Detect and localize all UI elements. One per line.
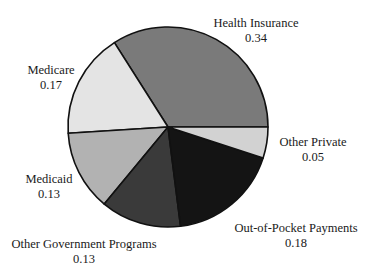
label-value: 0.05 xyxy=(280,150,347,165)
label-other-private: Other Private 0.05 xyxy=(280,135,347,165)
label-name: Other Private xyxy=(280,135,347,150)
label-health-insurance: Health Insurance 0.34 xyxy=(213,16,298,46)
label-value: 0.18 xyxy=(234,236,357,251)
label-name: Health Insurance xyxy=(213,16,298,31)
label-value: 0.17 xyxy=(27,78,74,93)
label-value: 0.13 xyxy=(25,187,72,202)
label-name: Out-of-Pocket Payments xyxy=(234,221,357,236)
label-value: 0.34 xyxy=(213,31,298,46)
label-medicaid: Medicaid 0.13 xyxy=(25,172,72,202)
label-other-government-programs: Other Government Programs 0.13 xyxy=(11,237,156,267)
pie-slices xyxy=(68,27,268,227)
label-name: Medicaid xyxy=(25,172,72,187)
label-out-of-pocket-payments: Out-of-Pocket Payments 0.18 xyxy=(234,221,357,251)
label-medicare: Medicare 0.17 xyxy=(27,63,74,93)
label-name: Medicare xyxy=(27,63,74,78)
label-value: 0.13 xyxy=(11,252,156,267)
label-name: Other Government Programs xyxy=(11,237,156,252)
